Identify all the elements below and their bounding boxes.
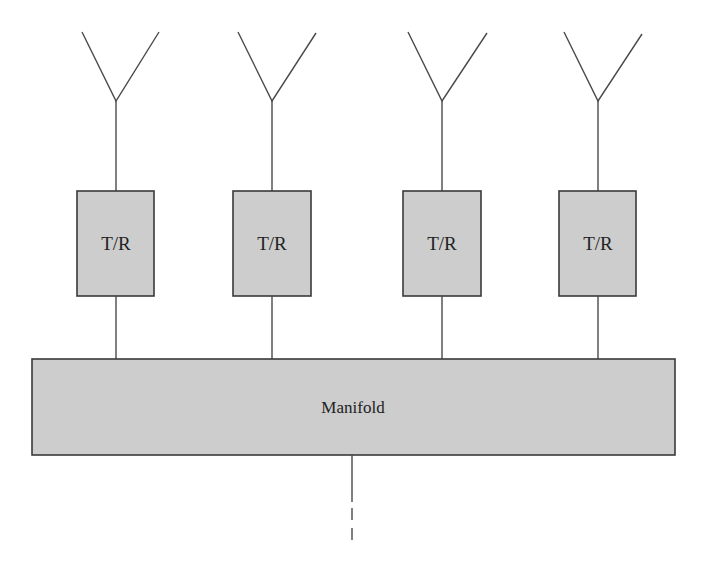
tr-module-label-2: T/R (257, 233, 287, 255)
phased-array-diagram (0, 0, 706, 568)
array-element-3 (403, 32, 487, 359)
array-element-2 (233, 32, 316, 359)
antenna-icon (564, 32, 642, 101)
antenna-icon (408, 32, 487, 101)
tr-module-label-3: T/R (427, 233, 457, 255)
antenna-icon (82, 32, 159, 101)
tr-module-label-4: T/R (583, 233, 613, 255)
antenna-icon (238, 32, 316, 101)
array-element-4 (559, 32, 642, 359)
manifold-label: Manifold (321, 398, 384, 418)
array-element-1 (77, 32, 159, 359)
tr-module-label-1: T/R (101, 233, 131, 255)
